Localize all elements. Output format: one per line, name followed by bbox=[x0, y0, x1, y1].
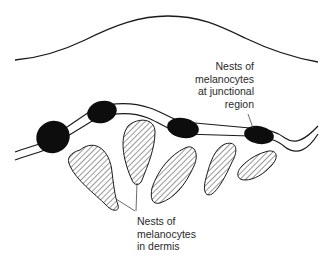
dermal-nest-4 bbox=[204, 143, 235, 195]
label-line: Nests of bbox=[195, 60, 254, 73]
junctional-nest-3 bbox=[166, 115, 201, 140]
label-line: melanocytes bbox=[195, 73, 254, 86]
label-line: melanocytes bbox=[137, 228, 196, 241]
label-line: in dermis bbox=[137, 240, 196, 253]
label-line: region bbox=[195, 98, 254, 111]
junctional-nest-4 bbox=[243, 124, 276, 147]
pointer-dermis-1 bbox=[116, 199, 135, 211]
pointer-dermis-2 bbox=[136, 183, 137, 211]
label-junctional-nests: Nests of melanocytes at junctional regio… bbox=[195, 60, 254, 110]
label-line: at junctional bbox=[195, 85, 254, 98]
dermal-nest-5 bbox=[238, 151, 276, 180]
skin-surface-curve bbox=[15, 16, 318, 62]
pointer-junctional bbox=[248, 114, 253, 128]
dermal-nest-2 bbox=[123, 120, 155, 184]
dermal-nest-1 bbox=[68, 145, 118, 210]
dermal-nest-3 bbox=[151, 147, 196, 204]
label-dermal-nests: Nests of melanocytes in dermis bbox=[137, 215, 196, 253]
label-line: Nests of bbox=[137, 215, 196, 228]
